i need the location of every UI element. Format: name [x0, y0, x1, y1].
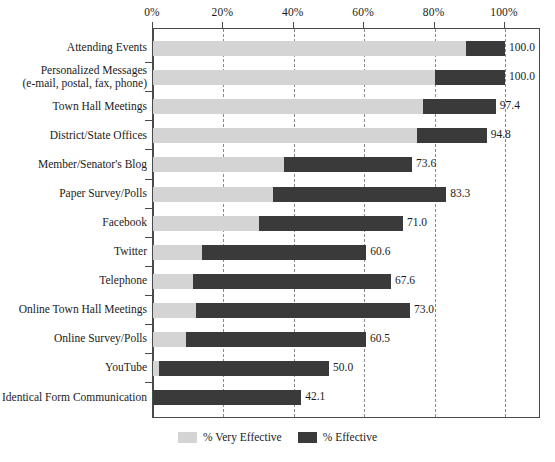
bar-value-label-1: 100.0 — [509, 69, 535, 84]
bar-segment-very-effective-3 — [153, 128, 417, 143]
category-label-line2: (e-mail, postal, fax, phone) — [22, 77, 147, 90]
bar-value-label-2: 97.4 — [500, 98, 520, 113]
bar-segment-effective-7 — [202, 245, 366, 260]
category-label-0: Attending Events — [67, 41, 147, 54]
bar-row-4 — [153, 157, 541, 172]
x-tick-label-40: 40% — [282, 6, 304, 18]
category-label-line1: Telephone — [99, 274, 147, 286]
category-label-10: Online Survey/Polls — [54, 332, 147, 345]
category-label-7: Twitter — [114, 245, 147, 258]
y-tick-mark-3 — [145, 120, 152, 121]
category-label-line1: Personalized Messages — [41, 64, 147, 76]
y-tick-mark-1 — [145, 62, 152, 63]
bar-segment-very-effective-9 — [153, 303, 196, 318]
category-label-4: Member/Senator's Blog — [38, 158, 147, 171]
category-label-line1: Facebook — [102, 216, 147, 228]
category-label-line1: Identical Form Communication — [2, 391, 147, 403]
bar-value-label-6: 71.0 — [407, 215, 427, 230]
bar-segment-effective-0 — [466, 41, 505, 56]
y-tick-mark-2 — [145, 91, 152, 92]
category-label-line1: Twitter — [114, 245, 147, 257]
x-tick-label-60: 60% — [352, 6, 374, 18]
bar-segment-very-effective-0 — [153, 41, 466, 56]
bar-segment-effective-11 — [159, 361, 329, 376]
legend-swatch-0 — [178, 432, 197, 443]
bar-row-10 — [153, 332, 541, 347]
x-tick-label-100: 100% — [490, 6, 518, 18]
category-label-line1: District/State Offices — [50, 129, 147, 141]
bar-segment-very-effective-10 — [153, 332, 186, 347]
bar-segment-very-effective-1 — [153, 70, 435, 85]
category-label-8: Telephone — [99, 274, 147, 287]
category-label-line1: Online Town Hall Meetings — [19, 303, 147, 315]
bar-row-3 — [153, 128, 541, 143]
bar-segment-very-effective-7 — [153, 245, 202, 260]
bar-value-label-4: 73.6 — [416, 156, 436, 171]
bar-value-label-3: 94.8 — [491, 127, 511, 142]
x-tick-label-20: 20% — [212, 6, 234, 18]
bar-segment-effective-1 — [435, 70, 505, 85]
category-label-9: Online Town Hall Meetings — [19, 303, 147, 316]
legend-item-1[interactable]: % Effective — [298, 431, 377, 443]
y-tick-mark-5 — [145, 179, 152, 180]
bar-segment-effective-4 — [284, 157, 412, 172]
category-label-line1: Online Survey/Polls — [54, 332, 147, 344]
bar-segment-very-effective-4 — [153, 157, 284, 172]
category-label-3: District/State Offices — [50, 129, 147, 142]
y-tick-mark-6 — [145, 208, 152, 209]
bar-value-label-10: 60.5 — [370, 331, 390, 346]
bar-segment-effective-8 — [193, 274, 391, 289]
bar-row-12 — [153, 390, 541, 405]
y-tick-mark-10 — [145, 324, 152, 325]
bar-segment-very-effective-6 — [153, 216, 259, 231]
legend-swatch-1 — [298, 432, 317, 443]
category-label-12: Identical Form Communication — [2, 391, 147, 404]
y-tick-mark-4 — [145, 149, 152, 150]
bar-row-0 — [153, 41, 541, 56]
bar-row-7 — [153, 245, 541, 260]
chart-legend: % Very Effective% Effective — [0, 431, 555, 443]
bar-row-1 — [153, 70, 541, 85]
category-label-6: Facebook — [102, 216, 147, 229]
legend-label-0: % Very Effective — [203, 431, 282, 443]
x-tick-label-0: 0% — [144, 6, 160, 18]
bar-segment-effective-6 — [259, 216, 403, 231]
x-tick-label-80: 80% — [423, 6, 445, 18]
y-tick-mark-9 — [145, 295, 152, 296]
bar-row-5 — [153, 187, 541, 202]
bar-value-label-5: 83.3 — [450, 186, 470, 201]
bar-value-label-11: 50.0 — [333, 360, 353, 375]
y-tick-mark-11 — [145, 353, 152, 354]
category-label-1: Personalized Messages(e-mail, postal, fa… — [22, 64, 147, 89]
y-tick-mark-7 — [145, 237, 152, 238]
bar-segment-very-effective-2 — [153, 99, 423, 114]
bar-value-label-0: 100.0 — [509, 40, 535, 55]
bar-segment-effective-5 — [273, 187, 446, 202]
legend-item-0[interactable]: % Very Effective — [178, 431, 282, 443]
bar-row-9 — [153, 303, 541, 318]
bar-value-label-12: 42.1 — [305, 389, 325, 404]
bar-segment-effective-3 — [417, 128, 487, 143]
bar-segment-effective-2 — [423, 99, 496, 114]
bar-row-2 — [153, 99, 541, 114]
bar-segment-effective-12 — [153, 390, 301, 405]
bar-row-6 — [153, 216, 541, 231]
category-label-2: Town Hall Meetings — [53, 100, 147, 113]
bar-value-label-9: 73.0 — [414, 302, 434, 317]
bar-value-label-7: 60.6 — [370, 244, 390, 259]
stacked-bar-chart: 0%20%40%60%80%100% Attending EventsPerso… — [0, 0, 555, 462]
bar-segment-effective-9 — [196, 303, 410, 318]
y-tick-mark-12 — [145, 382, 152, 383]
bar-row-8 — [153, 274, 541, 289]
legend-label-1: % Effective — [323, 431, 377, 443]
bar-segment-effective-10 — [186, 332, 366, 347]
category-label-line1: YouTube — [105, 361, 147, 373]
category-label-line1: Paper Survey/Polls — [59, 187, 147, 199]
category-label-11: YouTube — [105, 361, 147, 374]
bar-value-label-8: 67.6 — [395, 273, 415, 288]
category-label-line1: Attending Events — [67, 41, 147, 53]
bar-segment-very-effective-8 — [153, 274, 193, 289]
bar-segment-very-effective-5 — [153, 187, 273, 202]
category-label-line1: Member/Senator's Blog — [38, 158, 147, 170]
category-label-5: Paper Survey/Polls — [59, 187, 147, 200]
